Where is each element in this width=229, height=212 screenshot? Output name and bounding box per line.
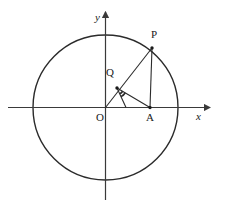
point-dot-q bbox=[115, 86, 118, 89]
point-dot-p bbox=[150, 46, 153, 49]
point-label-q: Q bbox=[106, 67, 114, 78]
angle-mark-inner bbox=[120, 91, 123, 94]
geometry-canvas bbox=[0, 0, 229, 212]
x-axis-label: x bbox=[196, 111, 201, 122]
geometry-figure: O P Q A x y bbox=[0, 0, 229, 212]
point-label-p: P bbox=[151, 29, 157, 40]
y-axis-label: y bbox=[95, 12, 100, 23]
point-label-a: A bbox=[146, 112, 154, 123]
point-dot-a bbox=[148, 106, 151, 109]
segment-pa bbox=[150, 48, 152, 108]
point-label-o: O bbox=[96, 112, 104, 123]
